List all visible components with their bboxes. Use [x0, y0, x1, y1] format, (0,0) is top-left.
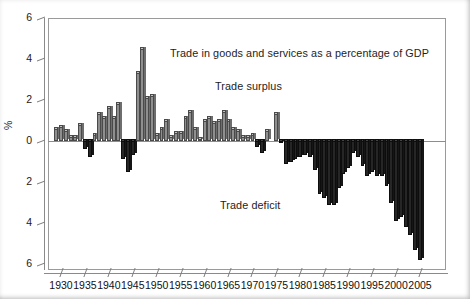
bar — [289, 141, 293, 162]
bar — [251, 135, 255, 141]
bar — [169, 137, 173, 141]
bar — [356, 141, 360, 157]
bar — [112, 118, 116, 141]
bar — [236, 131, 240, 141]
bar — [408, 141, 412, 235]
bar — [385, 141, 389, 186]
bar — [274, 114, 278, 141]
bar — [97, 114, 101, 141]
bar — [69, 137, 73, 141]
bar — [404, 141, 408, 227]
chart-title-annotation: Trade in goods and services as a percent… — [170, 47, 429, 59]
bar — [102, 118, 106, 141]
bar — [160, 129, 164, 141]
bar — [418, 141, 422, 260]
bar — [107, 108, 111, 141]
bar — [351, 141, 355, 153]
trade-deficit-annotation: Trade deficit — [220, 199, 280, 211]
bar — [394, 141, 398, 221]
y-axis-label: % — [2, 121, 14, 130]
y-tick-label: 0 — [14, 135, 32, 145]
bar — [284, 141, 288, 164]
bar — [318, 141, 322, 194]
bar — [279, 141, 283, 143]
bar — [308, 141, 312, 157]
bar — [337, 141, 341, 188]
bar-side-face — [269, 129, 271, 139]
x-tick-label: 2005 — [403, 279, 437, 291]
bar — [227, 121, 231, 142]
bar — [255, 141, 259, 147]
bar — [313, 141, 317, 170]
bar — [116, 104, 120, 141]
bar — [365, 141, 369, 176]
bar — [212, 123, 216, 141]
bar — [198, 139, 202, 141]
bar — [131, 141, 135, 155]
trade-balance-chart-figure: % 6420246 193019351940194519501955196019… — [0, 0, 470, 299]
bar — [126, 141, 130, 172]
bar — [346, 141, 350, 168]
bar — [174, 133, 178, 141]
y-tick-label: 6 — [14, 12, 32, 22]
bar — [361, 141, 365, 166]
y-tick-label: 6 — [14, 258, 32, 268]
bar-face — [198, 139, 202, 141]
bar — [241, 137, 245, 141]
bar — [140, 49, 144, 141]
bar — [298, 141, 302, 157]
bar-face — [279, 141, 283, 143]
bar — [54, 129, 58, 141]
bar — [332, 141, 336, 205]
bar — [260, 141, 264, 153]
bar — [294, 141, 298, 159]
bar — [303, 141, 307, 155]
bar — [341, 141, 345, 174]
bar — [164, 121, 168, 142]
bar — [380, 141, 384, 176]
bar — [413, 141, 417, 250]
x-axis-line — [44, 273, 448, 274]
bar — [207, 118, 211, 141]
y-axis-line — [44, 18, 45, 270]
bar — [246, 137, 250, 141]
bar — [150, 96, 154, 141]
bar — [83, 141, 87, 149]
bar-side-face — [92, 139, 94, 155]
bar — [73, 137, 77, 141]
bar — [145, 98, 149, 141]
bar-side-face — [422, 139, 424, 258]
bar-side-face — [278, 112, 280, 139]
bar — [59, 127, 63, 141]
bar — [193, 129, 197, 141]
bar — [93, 135, 97, 141]
bar — [370, 141, 374, 172]
bar — [265, 131, 269, 141]
bar-side-face — [135, 139, 137, 153]
bar — [88, 141, 92, 157]
trade-surplus-annotation: Trade surplus — [215, 80, 282, 92]
bar — [179, 133, 183, 141]
y-tick-label: 4 — [14, 53, 32, 63]
bar — [121, 141, 125, 159]
bar — [136, 73, 140, 141]
bar-side-face — [82, 123, 84, 139]
y-tick-label: 4 — [14, 217, 32, 227]
bar — [327, 141, 331, 205]
bar — [188, 112, 192, 141]
bar — [399, 141, 403, 217]
bar — [184, 118, 188, 141]
bar — [231, 129, 235, 141]
y-tick-label: 2 — [14, 94, 32, 104]
bar — [389, 141, 393, 203]
bar — [375, 141, 379, 176]
y-tick-label: 2 — [14, 176, 32, 186]
bar — [78, 125, 82, 141]
bar — [64, 131, 68, 141]
bar-side-face — [120, 102, 122, 139]
bar — [217, 121, 221, 142]
bar — [155, 135, 159, 141]
bar — [322, 141, 326, 198]
bar — [203, 121, 207, 142]
bar — [222, 112, 226, 141]
